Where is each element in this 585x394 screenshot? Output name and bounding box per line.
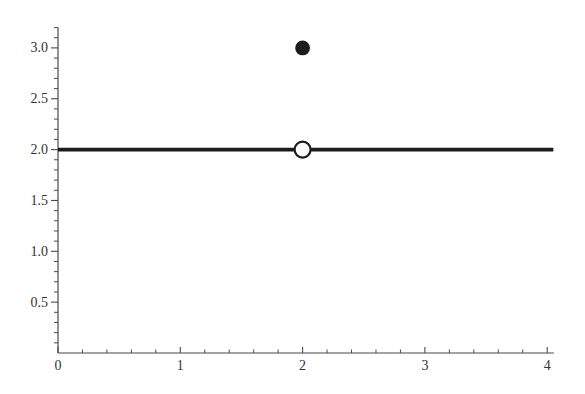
- y-tick-label: 2.5: [31, 91, 49, 106]
- filled-point: [295, 41, 310, 56]
- y-tick-label: 2.0: [31, 142, 49, 157]
- y-tick-label: 1.5: [31, 193, 49, 208]
- y-tick-label: 0.5: [31, 295, 49, 310]
- discontinuity-plot: 012340.51.01.52.02.53.0: [0, 0, 585, 394]
- x-tick-label: 0: [55, 358, 62, 373]
- open-point: [295, 142, 311, 158]
- x-tick-label: 3: [421, 358, 428, 373]
- x-tick-label: 2: [299, 358, 306, 373]
- y-tick-label: 3.0: [31, 40, 49, 55]
- y-tick-label: 1.0: [31, 244, 49, 259]
- plot-figure: 012340.51.01.52.02.53.0: [0, 0, 585, 394]
- x-tick-label: 4: [544, 358, 551, 373]
- x-tick-label: 1: [177, 358, 184, 373]
